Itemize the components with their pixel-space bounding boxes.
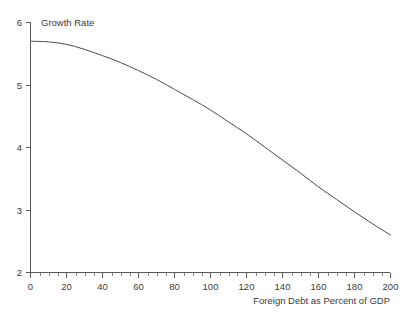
x-tick-label-0: 0	[28, 281, 33, 292]
x-tick-label-140: 140	[275, 281, 291, 292]
growth-rate-curve	[31, 41, 391, 235]
x-tick-label-180: 180	[347, 281, 363, 292]
y-tick-label-6: 6	[17, 17, 22, 28]
y-axis-title: Growth Rate	[41, 17, 94, 28]
y-tick-label-5: 5	[17, 80, 22, 91]
y-axis-ticks	[26, 23, 31, 273]
line-chart-canvas: 6 5 4 3 2 0 20 40 60 80	[0, 0, 413, 321]
y-tick-label-4: 4	[17, 142, 22, 153]
x-tick-label-120: 120	[239, 281, 255, 292]
x-tick-label-80: 80	[169, 281, 180, 292]
x-tick-label-40: 40	[97, 281, 108, 292]
x-tick-label-200: 200	[383, 281, 399, 292]
x-tick-label-20: 20	[61, 281, 72, 292]
y-tick-label-2: 2	[17, 267, 22, 278]
chart-figure: 6 5 4 3 2 0 20 40 60 80	[0, 0, 413, 321]
x-axis-title: Foreign Debt as Percent of GDP	[253, 295, 390, 306]
x-axis-major-ticks	[31, 273, 391, 279]
x-tick-label-60: 60	[133, 281, 144, 292]
x-tick-label-100: 100	[203, 281, 219, 292]
x-axis-minor-ticks	[41, 273, 383, 277]
y-tick-label-3: 3	[17, 205, 22, 216]
x-axis-tick-labels: 0 20 40 60 80 100 120 140 160 180 200	[28, 281, 399, 292]
x-tick-label-160: 160	[311, 281, 327, 292]
y-axis-tick-labels: 6 5 4 3 2	[17, 17, 22, 278]
